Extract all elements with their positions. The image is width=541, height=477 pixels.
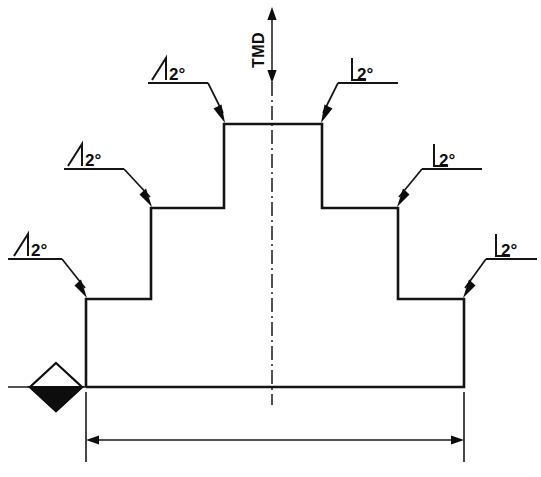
dimension-arrow-right-icon <box>451 435 464 444</box>
leader-arrowhead-icon <box>75 280 88 299</box>
overall-width-dimension <box>86 392 464 462</box>
taper-angle-icon <box>14 234 28 256</box>
tmd-arrow-down-icon <box>267 70 276 83</box>
annotation-label: 2° <box>501 241 517 260</box>
leader-arrowhead-icon <box>321 105 333 124</box>
technical-drawing-root: TMD 2° 2° 2° <box>0 0 541 477</box>
tmd-dimension: TMD <box>250 7 277 83</box>
part-outline <box>86 124 464 387</box>
annotation-label: 2° <box>85 151 101 170</box>
annotation-label: 2° <box>439 151 455 170</box>
annotation-label: 2° <box>31 241 47 260</box>
datum-diamond-filled-half <box>30 387 82 411</box>
taper-angle-icon <box>68 144 82 166</box>
tmd-arrow-up-icon <box>267 7 276 20</box>
annotation-label: 2° <box>357 65 373 84</box>
annotation-taper-base-left[interactable]: 2° <box>8 234 87 298</box>
annotation-taper-top-right[interactable]: 2° <box>321 58 398 123</box>
leader-arrowhead-icon <box>140 189 153 208</box>
annotation-taper-mid-right[interactable]: 2° <box>397 144 482 207</box>
annotation-taper-mid-left[interactable]: 2° <box>64 144 152 207</box>
dimension-arrow-left-icon <box>86 435 99 444</box>
leader-arrowhead-icon <box>214 105 226 124</box>
taper-angle-icon <box>152 58 166 80</box>
tmd-label: TMD <box>250 32 267 68</box>
leader-arrowhead-icon <box>463 280 476 299</box>
annotation-label: 2° <box>169 65 185 84</box>
annotation-taper-top-left[interactable]: 2° <box>148 58 225 123</box>
drawing-canvas: TMD 2° 2° 2° <box>0 0 541 477</box>
leader-arrowhead-icon <box>397 189 410 208</box>
annotation-taper-base-right[interactable]: 2° <box>463 234 537 298</box>
datum-symbol[interactable] <box>8 363 86 411</box>
